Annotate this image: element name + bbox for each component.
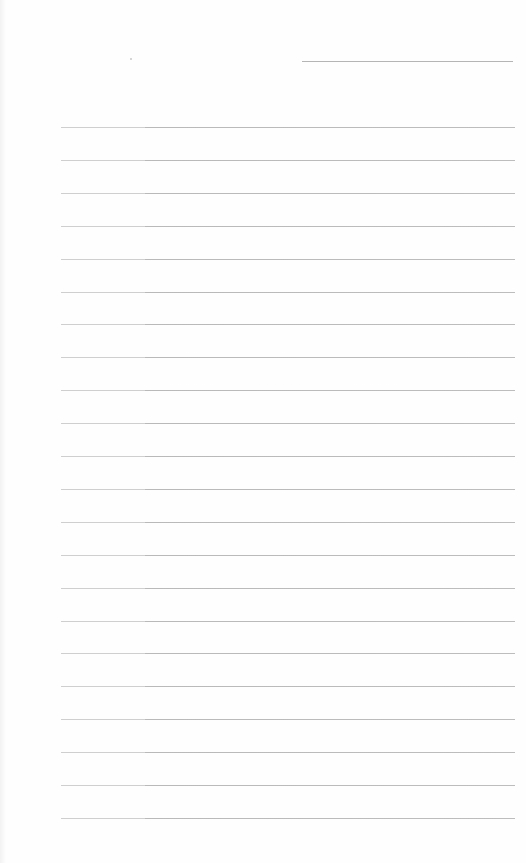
ruled-line[interactable] bbox=[61, 357, 515, 358]
ruled-line[interactable] bbox=[61, 193, 515, 194]
ruled-line[interactable] bbox=[61, 588, 515, 589]
ruled-line[interactable] bbox=[61, 324, 515, 325]
ruled-line[interactable] bbox=[61, 555, 515, 556]
ruled-line[interactable] bbox=[61, 653, 515, 654]
ruled-line[interactable] bbox=[61, 621, 515, 622]
ruled-line[interactable] bbox=[61, 423, 515, 424]
ruled-line[interactable] bbox=[61, 456, 515, 457]
ruled-line[interactable] bbox=[61, 785, 515, 786]
page-mark bbox=[130, 58, 132, 60]
date-field-line[interactable] bbox=[302, 61, 513, 62]
page-edge-shadow bbox=[0, 0, 6, 863]
ruled-line[interactable] bbox=[61, 686, 515, 687]
ruled-line[interactable] bbox=[61, 226, 515, 227]
ruled-line[interactable] bbox=[61, 752, 515, 753]
ruled-line[interactable] bbox=[61, 489, 515, 490]
ruled-line[interactable] bbox=[61, 719, 515, 720]
ruled-line[interactable] bbox=[61, 818, 515, 819]
ruled-line[interactable] bbox=[61, 522, 515, 523]
ruled-line[interactable] bbox=[61, 390, 515, 391]
ruled-line[interactable] bbox=[61, 292, 515, 293]
ruled-line[interactable] bbox=[61, 127, 515, 128]
ruled-line[interactable] bbox=[61, 259, 515, 260]
ruled-line[interactable] bbox=[61, 160, 515, 161]
